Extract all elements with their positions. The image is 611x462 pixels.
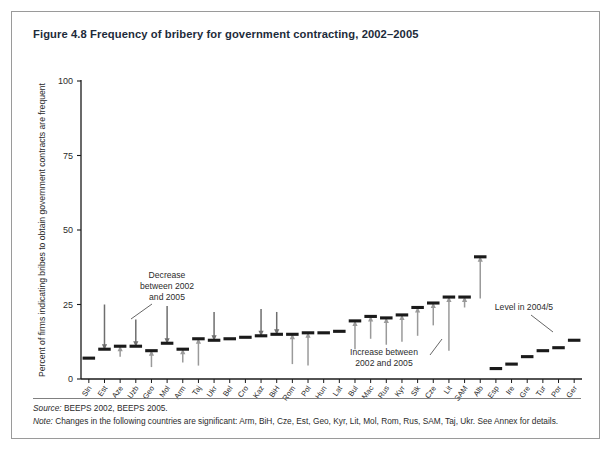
note-value: Changes in the following countries are s… xyxy=(53,416,558,426)
change-arrow-alb xyxy=(478,256,483,298)
x-tick-label-mol: Mol xyxy=(158,384,173,399)
y-tick-label: 75 xyxy=(63,151,73,161)
change-arrow-geo xyxy=(149,350,154,367)
change-arrow-pol xyxy=(305,332,310,365)
annotation-decrease-line2: between 2002 xyxy=(140,281,194,291)
change-arrow-arm xyxy=(180,349,185,363)
annotation-decrease-line1: Decrease xyxy=(149,270,186,280)
change-arrow-bih xyxy=(274,312,279,335)
x-tick-label-bul: Bul xyxy=(346,384,360,398)
x-tick-label-lit: Lit xyxy=(442,383,454,395)
x-tick-label-rom: Rom xyxy=(281,384,298,402)
change-arrow-mol xyxy=(165,306,170,344)
y-tick-label: 100 xyxy=(58,76,73,86)
annotation-decrease: Decreasebetween 2002and 2005 xyxy=(131,270,194,319)
change-arrow-cze xyxy=(431,303,436,326)
x-tick-label-slk: Slk xyxy=(409,384,423,398)
x-tick-label-lat: Lat xyxy=(331,383,345,398)
y-axis-label: Percent of firms indicating bribes to ob… xyxy=(37,83,47,377)
x-tick-label-bih: BiH xyxy=(267,384,281,399)
x-tick-label-alb: Alb xyxy=(471,384,485,398)
x-tick-label-pol: Pol xyxy=(299,384,313,398)
annotation-level-leader xyxy=(531,315,553,332)
change-arrow-kaz xyxy=(258,309,263,336)
change-arrow-lit xyxy=(446,297,451,351)
change-arrow-uzb xyxy=(133,319,138,346)
x-tick-label-ire: Ire xyxy=(504,384,516,396)
note-label: Note: xyxy=(33,416,53,426)
figure-frame: Figure 4.8 Frequency of bribery for gove… xyxy=(11,11,600,439)
note-line: Note: Changes in the following countries… xyxy=(33,415,581,428)
plot-area: 0255075100Percent of firms indicating br… xyxy=(12,12,601,440)
annotation-increase-line2: 2002 and 2005 xyxy=(355,358,413,368)
change-arrow-rom xyxy=(290,334,295,364)
annotation-increase-leader xyxy=(430,339,442,355)
x-tick-label-sam: SAM xyxy=(453,384,470,403)
change-arrow-mac xyxy=(368,316,373,339)
source-value: BEEPS 2002, BEEPS 2005. xyxy=(62,403,168,413)
footer-divider xyxy=(33,398,581,399)
change-arrow-slk xyxy=(415,307,420,336)
bribery-frequency-chart: 0255075100Percent of firms indicating br… xyxy=(12,12,601,440)
annotation-increase: Increase between2002 and 2005 xyxy=(350,339,442,368)
source-label: Source: xyxy=(33,403,62,413)
change-arrow-rus xyxy=(384,317,389,344)
annotation-level-label: Level in 2004/5 xyxy=(495,302,554,312)
y-tick-label: 50 xyxy=(63,225,73,235)
x-tick-label-taj: Taj xyxy=(190,384,203,397)
x-tick-label-por: Por xyxy=(549,384,563,399)
x-tick-label-kyr: Kyr xyxy=(393,384,407,399)
source-note: Source: BEEPS 2002, BEEPS 2005. xyxy=(33,402,581,415)
x-tick-label-cro: Cro xyxy=(236,384,250,399)
y-tick-label: 25 xyxy=(63,300,73,310)
x-tick-label-bel: Bel xyxy=(221,384,235,398)
x-axis-category-labels: SlnEstAzeUzbGeoMolArmTajUkrBelCroKazBiHR… xyxy=(80,383,579,402)
change-arrow-bul xyxy=(352,320,357,349)
figure-footnotes: Source: BEEPS 2002, BEEPS 2005. Note: Ch… xyxy=(33,402,581,428)
annotation-increase-line1: Increase between xyxy=(350,347,418,357)
annotation-decrease-line3: and 2005 xyxy=(149,292,185,302)
x-tick-label-sln: Sln xyxy=(80,384,94,398)
change-arrow-ukr xyxy=(211,312,216,341)
x-tick-label-est: Est xyxy=(96,383,110,398)
change-arrow-est xyxy=(102,305,107,350)
annotation-decrease-leader xyxy=(131,304,152,319)
change-arrow-kyr xyxy=(399,314,404,341)
x-tick-label-tur: Tur xyxy=(534,384,548,399)
x-tick-label-ukr: Ukr xyxy=(205,384,219,399)
annotation-level: Level in 2004/5 xyxy=(495,302,554,332)
y-tick-label: 0 xyxy=(68,374,73,384)
change-arrow-taj xyxy=(196,338,201,365)
